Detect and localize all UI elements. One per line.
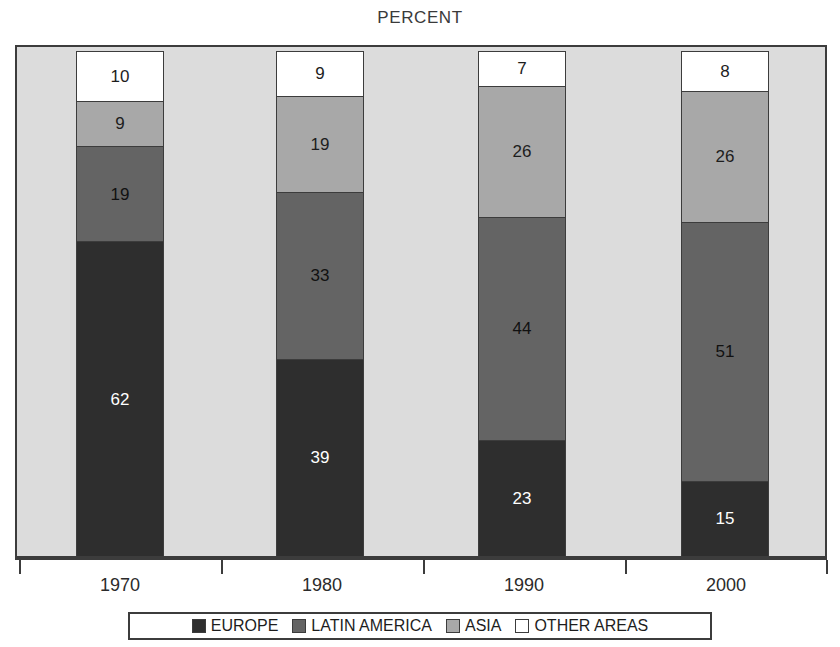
segment-value-label: 51: [716, 343, 735, 360]
segment-value-label: 10: [111, 68, 130, 85]
bar-segment-1980-other-areas: 9: [276, 51, 364, 97]
x-axis-label-1990: 1990: [464, 575, 584, 596]
x-axis-tick-2: [423, 560, 425, 574]
legend-swatch-icon: [515, 619, 529, 633]
segment-value-label: 44: [513, 320, 532, 337]
legend-label: OTHER AREAS: [534, 617, 648, 635]
legend-swatch-icon: [192, 619, 206, 633]
bar-segment-1970-europe: 62: [76, 241, 164, 557]
chart-legend: EUROPELATIN AMERICAASIAOTHER AREAS: [128, 612, 712, 640]
bar-segment-2000-europe: 15: [681, 481, 769, 557]
plot-area: 1091962919333972644238265115: [15, 45, 827, 558]
legend-item-asia[interactable]: ASIA: [446, 617, 501, 635]
bar-segment-1990-latin-america: 44: [478, 217, 566, 441]
legend-label: LATIN AMERICA: [311, 617, 432, 635]
bar-1970: 1091962: [76, 47, 164, 556]
legend-label: EUROPE: [211, 617, 279, 635]
bar-segment-1980-latin-america: 33: [276, 192, 364, 360]
x-axis-label-1970: 1970: [60, 575, 180, 596]
chart-title: PERCENT: [0, 8, 840, 28]
segment-value-label: 23: [513, 490, 532, 507]
bar-segment-1970-asia: 9: [76, 101, 164, 147]
x-axis-tick-0: [19, 560, 21, 574]
x-axis-line: [15, 558, 827, 560]
legend-swatch-icon: [446, 619, 460, 633]
bar-segment-1990-europe: 23: [478, 440, 566, 557]
x-axis-tick-4: [826, 560, 828, 574]
segment-value-label: 19: [311, 136, 330, 153]
bar-segment-2000-other-areas: 8: [681, 51, 769, 92]
segment-value-label: 15: [716, 510, 735, 527]
bar-segment-1990-asia: 26: [478, 86, 566, 218]
bar-segment-1990-other-areas: 7: [478, 51, 566, 87]
legend-swatch-icon: [292, 619, 306, 633]
legend-item-other-areas[interactable]: OTHER AREAS: [515, 617, 648, 635]
segment-value-label: 9: [115, 115, 124, 132]
segment-value-label: 62: [111, 391, 130, 408]
x-axis-tick-3: [625, 560, 627, 574]
segment-value-label: 9: [315, 65, 324, 82]
bar-segment-1980-asia: 19: [276, 96, 364, 193]
bar-1980: 9193339: [276, 47, 364, 556]
bar-segment-1970-latin-america: 19: [76, 146, 164, 243]
segment-value-label: 39: [311, 449, 330, 466]
segment-value-label: 33: [311, 267, 330, 284]
bar-1990: 7264423: [478, 47, 566, 556]
legend-label: ASIA: [465, 617, 501, 635]
bar-segment-2000-asia: 26: [681, 91, 769, 223]
x-axis-label-1980: 1980: [262, 575, 382, 596]
x-axis-label-2000: 2000: [666, 575, 786, 596]
x-axis-tick-1: [221, 560, 223, 574]
legend-item-europe[interactable]: EUROPE: [192, 617, 279, 635]
bar-2000: 8265115: [681, 47, 769, 556]
bar-segment-2000-latin-america: 51: [681, 222, 769, 482]
bar-segment-1980-europe: 39: [276, 359, 364, 558]
segment-value-label: 26: [513, 143, 532, 160]
segment-value-label: 7: [517, 60, 526, 77]
segment-value-label: 19: [111, 186, 130, 203]
segment-value-label: 8: [720, 63, 729, 80]
segment-value-label: 26: [716, 148, 735, 165]
bar-segment-1970-other-areas: 10: [76, 51, 164, 102]
legend-item-latin-america[interactable]: LATIN AMERICA: [292, 617, 432, 635]
